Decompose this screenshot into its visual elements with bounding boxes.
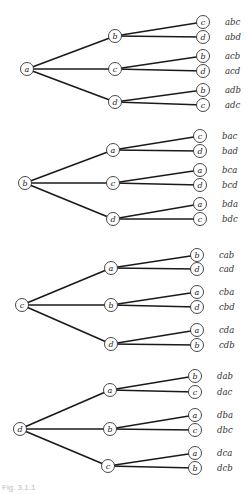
leaf-node: c — [194, 130, 207, 143]
leaf-node: a — [189, 409, 202, 422]
permutation-label: dcb — [217, 463, 233, 473]
branch-node: d — [109, 96, 122, 109]
leaf-node: b — [191, 249, 204, 262]
permutation-label: acd — [225, 66, 241, 76]
edge-branch-to-leaf — [111, 305, 197, 307]
branch-node: b — [104, 423, 117, 436]
permutation-label: bda — [222, 199, 238, 209]
leaf-node: d — [191, 301, 204, 314]
edge-branch-to-leaf — [111, 330, 197, 344]
node-letter: c — [106, 462, 111, 471]
node-letter: d — [108, 340, 113, 349]
node-letter: b — [107, 425, 112, 434]
leaf-node: c — [197, 16, 210, 29]
edge-branch-to-leaf — [111, 268, 197, 269]
node-letter: c — [193, 388, 198, 397]
branch-node: b — [105, 299, 118, 312]
edge-branch-to-leaf — [113, 183, 200, 185]
branch-node: a — [105, 262, 118, 275]
edge-root-to-branch — [25, 150, 113, 183]
edge-branch-to-leaf — [113, 150, 200, 151]
node-letter: b — [192, 464, 197, 473]
permutation-label: cad — [219, 264, 235, 274]
permutation-label: cab — [219, 250, 234, 260]
permutation-label: abc — [225, 17, 241, 27]
node-letter: c — [198, 132, 203, 141]
node-letter: b — [200, 86, 205, 95]
edge-branch-to-leaf — [111, 344, 197, 345]
permutation-label: dac — [217, 387, 233, 397]
branch-node: c — [107, 177, 120, 190]
node-letter: c — [111, 179, 116, 188]
figure-caption: Fig. 3.1.1 — [2, 483, 36, 492]
node-letter: c — [20, 301, 25, 310]
permutation-label: cdb — [219, 340, 235, 350]
root-node: d — [14, 423, 27, 436]
branch-node: a — [107, 144, 120, 157]
node-letter: a — [193, 449, 198, 458]
leaf-node: a — [194, 164, 207, 177]
tree-nodes: abcdcbddbcbacdcaddaccabdbaddabdabcbaccab — [14, 16, 210, 475]
leaf-node: a — [191, 286, 204, 299]
edge-root-to-branch — [22, 305, 111, 344]
node-letter: b — [200, 52, 205, 61]
leaf-node: d — [197, 65, 210, 78]
permutation-label: acb — [225, 51, 240, 61]
node-letter: a — [109, 264, 114, 273]
leaf-node: c — [189, 424, 202, 437]
edge-branch-to-leaf — [110, 415, 195, 429]
node-letter: c — [193, 426, 198, 435]
edge-branch-to-leaf — [115, 56, 203, 69]
leaf-node: b — [189, 370, 202, 383]
edge-branch-to-leaf — [115, 69, 203, 71]
node-letter: a — [108, 386, 113, 395]
permutation-label: dba — [217, 410, 233, 420]
edge-root-to-branch — [20, 390, 110, 429]
leaf-node: b — [191, 339, 204, 352]
node-letter: d — [200, 67, 205, 76]
edge-branch-to-leaf — [111, 292, 197, 305]
root-node: b — [19, 177, 32, 190]
branch-node: c — [102, 460, 115, 473]
node-letter: a — [193, 411, 198, 420]
node-letter: d — [194, 303, 199, 312]
permutation-labels: abcabdacbacdadbadcbacbadbcabcdbdabdccabc… — [217, 17, 242, 473]
node-letter: d — [17, 425, 22, 434]
permutation-label: bdc — [222, 214, 238, 224]
permutation-label: bad — [222, 146, 239, 156]
branch-node: d — [107, 213, 120, 226]
edge-branch-to-leaf — [110, 429, 195, 430]
edge-branch-to-leaf — [115, 36, 203, 37]
edge-root-to-branch — [27, 36, 115, 69]
edge-branch-to-leaf — [108, 466, 195, 468]
permutation-label: adb — [225, 85, 241, 95]
edge-branch-to-leaf — [111, 255, 197, 268]
permutation-label: adc — [225, 100, 241, 110]
permutation-label: dab — [217, 371, 233, 381]
branch-node: a — [104, 384, 117, 397]
node-letter: a — [198, 200, 203, 209]
leaf-node: c — [194, 213, 207, 226]
root-node: a — [21, 63, 34, 76]
permutation-tree-diagram: abcdcbddbcbacdcaddaccabdbaddabdabcbaccab… — [0, 0, 249, 494]
permutation-label: bcd — [222, 180, 238, 190]
node-letter: a — [195, 326, 200, 335]
node-letter: b — [194, 251, 199, 260]
edge-branch-to-leaf — [113, 136, 200, 150]
permutation-label: cbd — [219, 302, 235, 312]
edge-branch-to-leaf — [115, 22, 203, 36]
branch-node: b — [109, 30, 122, 43]
branch-node: c — [109, 63, 122, 76]
node-letter: a — [195, 288, 200, 297]
node-letter: b — [112, 32, 117, 41]
permutation-label: bca — [222, 165, 237, 175]
edge-branch-to-leaf — [108, 453, 195, 466]
branch-node: d — [105, 338, 118, 351]
node-letter: d — [197, 181, 202, 190]
edge-root-to-branch — [20, 429, 108, 466]
leaf-node: b — [197, 84, 210, 97]
node-letter: b — [192, 372, 197, 381]
leaf-node: c — [197, 99, 210, 112]
permutation-label: bac — [222, 131, 238, 141]
edge-branch-to-leaf — [115, 90, 203, 102]
